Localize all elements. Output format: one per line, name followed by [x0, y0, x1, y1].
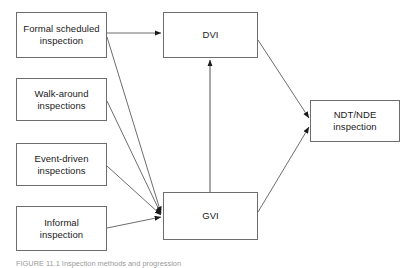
node-dvi: DVI: [163, 12, 258, 58]
node-label: Informal inspection: [40, 217, 83, 241]
node-formal-scheduled-inspection: Formal scheduled inspection: [16, 12, 107, 58]
node-walk-around-inspections: Walk-around inspections: [16, 78, 107, 121]
arrow-gvi-to-ndt: [258, 127, 309, 212]
node-label: DVI: [203, 29, 219, 41]
node-label: Formal scheduled inspection: [23, 23, 99, 47]
node-informal-inspection: Informal inspection: [16, 206, 107, 251]
node-label: Walk-around inspections: [34, 88, 88, 112]
arrow-event-driven-to-gvi: [107, 166, 161, 215]
node-gvi: GVI: [163, 192, 258, 240]
node-event-driven-inspections: Event-driven inspections: [16, 143, 107, 186]
node-ndt-nde-inspection: NDT/NDE inspection: [310, 100, 400, 142]
figure-caption: FIGURE 11.1 Inspection methods and progr…: [16, 259, 406, 268]
arrow-informal-to-gvi: [107, 217, 161, 228]
figure-diagram: Formal scheduled inspection Walk-around …: [0, 0, 412, 268]
node-label: Event-driven inspections: [35, 153, 89, 177]
node-label: GVI: [202, 210, 219, 222]
arrow-walk-around-to-gvi: [107, 101, 161, 214]
node-label: NDT/NDE inspection: [333, 109, 376, 133]
arrow-formal-to-gvi: [107, 37, 161, 213]
arrow-dvi-to-ndt: [258, 40, 309, 118]
